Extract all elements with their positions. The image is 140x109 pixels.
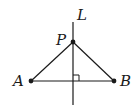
perpendicular-bisector-diagram: L P A B [0, 0, 140, 109]
right-angle-marker [73, 75, 79, 81]
label-l: L [76, 6, 87, 24]
point-p [71, 40, 76, 45]
point-a [29, 79, 34, 84]
segment-pa [31, 42, 73, 81]
diagram-canvas: L P A B [0, 0, 140, 109]
point-b [112, 79, 117, 84]
label-p: P [55, 31, 67, 49]
label-b: B [119, 72, 131, 90]
label-a: A [11, 72, 24, 90]
